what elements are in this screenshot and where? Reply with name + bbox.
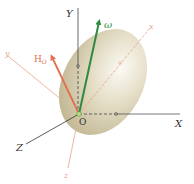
label-body-x: x — [149, 22, 154, 31]
label-h-subscript: O — [42, 58, 47, 65]
label-fixed-z: Z — [15, 142, 24, 153]
label-origin: O — [79, 117, 86, 127]
label-body-z: z — [63, 171, 69, 180]
label-body-y: y — [4, 49, 10, 58]
label-omega: ω — [104, 19, 112, 30]
label-angular-momentum: HO — [34, 54, 47, 65]
label-h: H — [34, 54, 42, 64]
angular-momentum-diagram: Y X Z x y z ω HO O — [0, 0, 194, 184]
label-fixed-x: X — [174, 118, 183, 129]
fixed-axis-z — [26, 114, 79, 144]
origin-point — [77, 112, 82, 117]
rigid-body-ellipsoid — [41, 14, 164, 150]
label-fixed-y: Y — [66, 8, 74, 19]
